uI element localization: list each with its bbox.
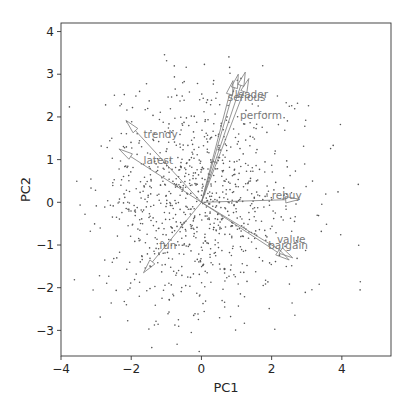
score-point	[134, 215, 136, 217]
score-point	[209, 196, 211, 198]
score-point	[174, 65, 176, 67]
score-point	[321, 231, 323, 233]
score-point	[229, 67, 231, 69]
score-point	[253, 127, 255, 129]
score-point	[244, 296, 246, 298]
score-point	[144, 177, 146, 179]
score-point	[224, 234, 226, 236]
score-point	[262, 65, 264, 67]
score-point	[169, 299, 171, 301]
score-point	[243, 186, 245, 188]
score-point	[206, 200, 208, 202]
score-point	[196, 227, 198, 229]
y-tick-label: −1	[36, 238, 54, 252]
score-point	[178, 270, 180, 272]
score-point	[130, 171, 132, 173]
score-point	[273, 218, 275, 220]
score-point	[94, 223, 96, 225]
score-point	[195, 237, 197, 239]
score-point	[161, 271, 163, 273]
score-point	[358, 244, 360, 246]
score-point	[145, 242, 147, 244]
score-point	[209, 254, 211, 256]
y-tick-label: −3	[36, 324, 54, 338]
score-point	[217, 242, 219, 244]
score-point	[272, 210, 274, 212]
score-point	[297, 102, 299, 104]
score-point	[116, 257, 118, 259]
score-point	[140, 181, 142, 183]
score-point	[182, 187, 184, 189]
score-point	[188, 209, 190, 211]
score-point	[174, 200, 176, 202]
score-point	[115, 290, 117, 292]
score-point	[205, 212, 207, 214]
score-point	[237, 283, 239, 285]
x-tick-label: 2	[268, 362, 276, 376]
score-point	[209, 223, 211, 225]
score-point	[168, 123, 170, 125]
score-point	[271, 164, 273, 166]
score-point	[321, 204, 323, 206]
score-point	[162, 234, 164, 236]
score-point	[163, 176, 165, 178]
score-point	[259, 229, 261, 231]
score-point	[360, 281, 362, 283]
score-point	[139, 140, 141, 142]
score-point	[123, 202, 125, 204]
score-point	[165, 219, 167, 221]
score-point	[160, 184, 162, 186]
score-point	[193, 172, 195, 174]
y-tick-label: 4	[46, 25, 54, 39]
score-point	[241, 249, 243, 251]
score-point	[181, 275, 183, 277]
score-point	[117, 202, 119, 204]
score-point	[141, 146, 143, 148]
score-point	[195, 178, 197, 180]
score-point	[207, 119, 209, 121]
score-point	[229, 183, 231, 185]
score-point	[209, 191, 211, 193]
score-point	[179, 134, 181, 136]
score-point	[206, 215, 208, 217]
score-point	[296, 258, 298, 260]
score-point	[127, 201, 129, 203]
score-point	[141, 218, 143, 220]
score-point	[105, 104, 107, 106]
score-point	[261, 220, 263, 222]
loading-label-bargain: bargain	[268, 239, 308, 251]
score-point	[215, 98, 217, 100]
score-point	[215, 181, 217, 183]
score-point	[259, 169, 261, 171]
score-point	[148, 217, 150, 219]
score-point	[251, 193, 253, 195]
score-point	[195, 172, 197, 174]
score-point	[191, 157, 193, 159]
score-point	[135, 273, 137, 275]
score-point	[233, 212, 235, 214]
score-point	[295, 203, 297, 205]
score-point	[218, 225, 220, 227]
score-point	[173, 295, 175, 297]
score-point	[325, 193, 327, 195]
score-point	[247, 183, 249, 185]
score-point	[161, 223, 163, 225]
score-point	[171, 284, 173, 286]
score-point	[194, 313, 196, 315]
score-point	[147, 253, 149, 255]
score-point	[223, 170, 225, 172]
score-point	[132, 107, 134, 109]
score-point	[189, 165, 191, 167]
y-tick-label: 3	[46, 67, 54, 81]
score-point	[181, 287, 183, 289]
score-point	[141, 256, 143, 258]
score-point	[295, 170, 297, 172]
score-point	[316, 214, 318, 216]
score-point	[252, 171, 254, 173]
x-tick-label: −2	[122, 362, 140, 376]
score-point	[240, 216, 242, 218]
score-point	[198, 174, 200, 176]
score-point	[131, 121, 133, 123]
score-point	[168, 282, 170, 284]
score-point	[264, 230, 266, 232]
